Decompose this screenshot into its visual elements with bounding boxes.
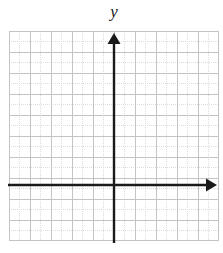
coordinate-plane-figure: y: [0, 0, 223, 253]
graph-svg: [0, 0, 223, 253]
y-axis-label: y: [104, 1, 124, 23]
